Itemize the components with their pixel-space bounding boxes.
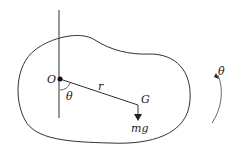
pivot-label: O [47,73,56,86]
angle-arc [60,83,70,90]
angular-velocity-label: θ̇ [218,65,225,78]
body-outline [18,35,190,143]
weight-arrow-icon [134,114,142,121]
rotation-arc [212,75,221,123]
angle-label: θ [66,90,73,103]
rigid-body-diagram: O r θ G mg θ̇ [0,0,236,150]
weight-label: mg [131,122,148,135]
pivot-point [58,77,63,82]
center-of-mass-label: G [141,93,150,106]
radius-label: r [98,80,104,93]
